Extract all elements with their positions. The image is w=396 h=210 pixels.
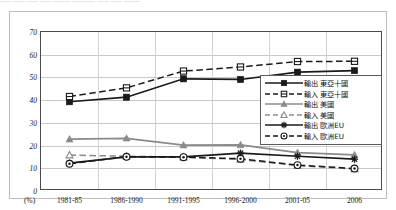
data-point — [180, 154, 187, 161]
y-axis-tick-label: 50 — [30, 73, 38, 82]
legend-marker-icon — [264, 99, 304, 109]
x-axis-tick-label: 1986-1990 — [110, 196, 143, 205]
legend-item[interactable]: 輸入 東亞十國 — [264, 89, 378, 100]
data-point — [294, 162, 301, 169]
y-axis-tick-label: 20 — [30, 141, 38, 150]
y-axis-tick-label: 60 — [30, 50, 38, 59]
legend-marker-icon — [264, 89, 304, 99]
y-axis-tick-label: 30 — [30, 118, 38, 127]
data-point — [351, 165, 358, 172]
legend-marker-icon — [264, 131, 304, 141]
data-point — [180, 68, 186, 74]
data-point — [294, 153, 301, 160]
legend-item[interactable]: 輸出 歐洲EU — [264, 120, 378, 131]
y-axis-tick-label: 70 — [30, 28, 38, 37]
x-axis-tick-label: 1996-2000 — [224, 196, 257, 205]
legend-item[interactable]: 輸入 美國 — [264, 110, 378, 121]
legend-label: 輸入 東亞十國 — [304, 89, 348, 99]
legend-label: 輸出 美國 — [304, 99, 334, 109]
legend-item[interactable]: 輸入 歐洲EU — [264, 131, 378, 142]
chart-legend: 輸出 東亞十國輸入 東亞十國輸出 美國輸入 美國輸出 歐洲EU輸入 歐洲EU — [260, 75, 382, 145]
y-axis-tick-label: 40 — [30, 96, 38, 105]
x-axis-tick-label: 1991-1995 — [167, 196, 200, 205]
legend-item[interactable]: 輸出 東亞十國 — [264, 78, 378, 89]
data-point — [123, 85, 129, 91]
data-point — [351, 58, 357, 64]
data-point — [123, 94, 129, 100]
data-point — [351, 156, 358, 163]
x-axis-tick-label: 2006 — [347, 196, 362, 205]
figure-root: ── ── ── ── ─── ──── ── ── ─── (%) 01020… — [0, 0, 396, 210]
data-point — [180, 76, 186, 82]
data-point — [66, 93, 72, 99]
legend-label: 輸出 歐洲EU — [304, 120, 344, 130]
data-point — [351, 68, 357, 74]
data-point — [66, 160, 73, 167]
y-axis-tick-label: 10 — [30, 164, 38, 173]
legend-marker-icon — [264, 120, 304, 130]
data-point — [294, 58, 300, 64]
data-point — [123, 153, 130, 160]
legend-item[interactable]: 輸出 美國 — [264, 99, 378, 110]
data-point — [237, 76, 243, 82]
x-axis-tick-label: 1981-85 — [57, 196, 82, 205]
figure-border: (%) 0102030405060701981-851986-19901991-… — [9, 11, 387, 199]
legend-label: 輸入 美國 — [304, 110, 334, 120]
data-point — [237, 155, 244, 162]
cropped-text-fragment: ── ── ── ── ─── ──── ── ── ─── — [0, 0, 141, 6]
x-axis-tick-label: 2001-05 — [285, 196, 310, 205]
cropped-text-strip: ── ── ── ── ─── ──── ── ── ─── — [0, 0, 396, 9]
data-point — [237, 64, 243, 70]
axis-unit-label: (%) — [24, 196, 35, 205]
legend-label: 輸入 歐洲EU — [304, 131, 344, 141]
legend-marker-icon — [264, 110, 304, 120]
legend-label: 輸出 東亞十國 — [304, 78, 348, 88]
legend-marker-icon — [264, 78, 304, 88]
y-axis-tick-label: 0 — [33, 187, 37, 196]
